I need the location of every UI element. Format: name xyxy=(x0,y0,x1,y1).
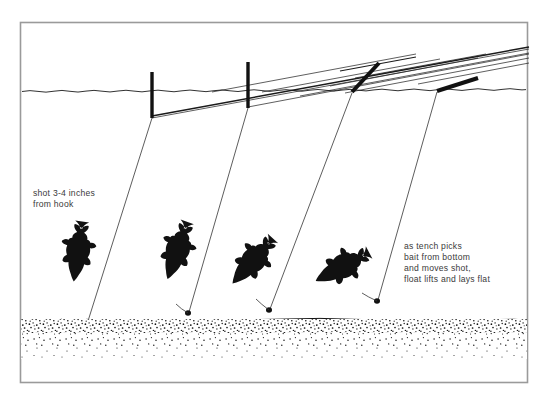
bed-stipple-mid xyxy=(21,333,527,346)
annotation-right-line-2: bait from bottom xyxy=(404,252,470,262)
annotation-right-line-4: float lifts and lays flat xyxy=(404,274,490,284)
annotation-right-line-1: as tench picks xyxy=(404,241,462,251)
annotation-right-line-3: and moves shot, xyxy=(404,263,471,273)
bed-stipple-sparse xyxy=(21,346,527,359)
annotation-left-line-1: shot 3-4 inches xyxy=(33,188,95,198)
diagram-canvas: shot 3-4 inches from hook as tench picks… xyxy=(0,0,547,399)
bed-stipple-dense xyxy=(21,319,527,333)
lake-bed xyxy=(21,318,527,359)
tench-lift-method-illustration: shot 3-4 inches from hook as tench picks… xyxy=(0,0,547,399)
annotation-left-line-2: from hook xyxy=(33,199,74,209)
